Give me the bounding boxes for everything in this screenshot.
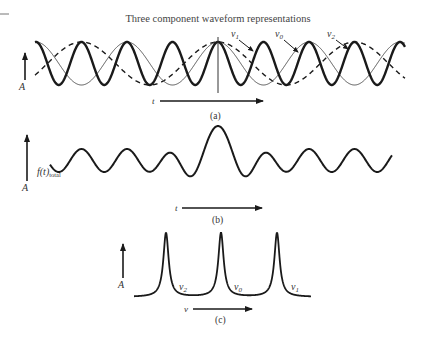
panel-b: f(t)total A t (b) — [21, 126, 392, 226]
caption-b: (b) — [212, 215, 223, 226]
panel-c: A ν2 ν0 ν1 ν (c) — [117, 233, 311, 326]
wave-total — [50, 126, 392, 176]
label-nu1: ν1 — [231, 28, 239, 41]
wave-nu1-thick — [35, 42, 405, 85]
waveform-figure: Three component waveform representations… — [0, 0, 421, 340]
peak-label-nu1: ν1 — [291, 281, 299, 294]
caption-c: (c) — [215, 315, 226, 326]
pointer-nu0-icon — [284, 40, 298, 52]
b-x-label: t — [175, 203, 178, 213]
peak-label-nu2: ν2 — [179, 281, 187, 294]
figure-title: Three component waveform representations — [125, 13, 310, 24]
a-y-label: A — [18, 81, 26, 92]
label-nu2: ν2 — [327, 28, 335, 41]
peak-label-nu0: ν0 — [234, 281, 242, 294]
b-y-label: A — [21, 182, 29, 193]
panel-a: A ν1 ν0 ν2 t (a) — [18, 28, 405, 122]
spectrum-line — [134, 233, 311, 296]
caption-a: (a) — [210, 111, 221, 122]
c-x-label: ν — [184, 304, 188, 314]
a-x-label: t — [152, 96, 155, 106]
pointer-nu1-icon — [239, 40, 253, 51]
label-nu0: ν0 — [275, 28, 283, 41]
c-y-label: A — [117, 279, 125, 290]
